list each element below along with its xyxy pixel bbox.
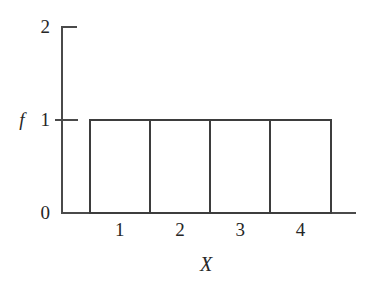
bar-1 — [90, 120, 150, 213]
y-tick-label-1: 1 — [28, 110, 50, 129]
x-tick-label-3: 3 — [210, 220, 270, 239]
x-tick-label-1: 1 — [90, 220, 150, 239]
bar-3 — [210, 120, 270, 213]
bar-4 — [270, 120, 330, 213]
bar-2 — [150, 120, 210, 213]
histogram-plot-area — [0, 0, 372, 293]
y-axis-title: f — [16, 110, 28, 129]
y-tick-label-2: 2 — [28, 17, 50, 36]
histogram-figure: 2 f 1 0 1 2 3 4 X — [0, 0, 372, 293]
x-tick-label-4: 4 — [270, 220, 330, 239]
x-axis-title: X — [186, 254, 226, 274]
x-tick-label-2: 2 — [150, 220, 210, 239]
y-tick-label-0: 0 — [28, 203, 50, 222]
